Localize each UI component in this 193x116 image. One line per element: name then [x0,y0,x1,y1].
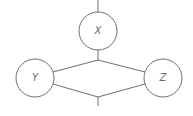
edge-y-to-lower-junction [53,84,98,97]
node-z-label: Z [153,71,173,85]
edge-junction-to-z [98,60,145,72]
edge-z-to-lower-junction [98,84,145,97]
node-y-label: Y [25,71,45,85]
diagram-svg [0,0,193,116]
edge-junction-to-y [53,60,98,72]
node-x-label: X [88,24,108,38]
diagram-canvas: X Y Z [0,0,193,116]
